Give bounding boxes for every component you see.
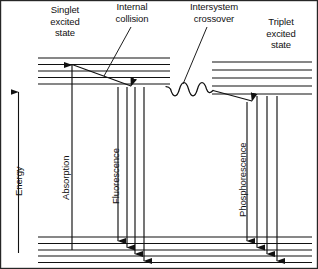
intersystem-crossover-label: Intersystem crossover (172, 1, 256, 24)
energy-axis-label: Energy (13, 166, 24, 196)
phosphorescence-label: Phosphorescence (237, 142, 248, 217)
internal-collision-label: Internal collision (96, 1, 168, 24)
figure-canvas: Singlet excited state Internal collision… (0, 0, 318, 269)
triplet-excited-state-label: Triplet excited state (248, 16, 314, 51)
absorption-label: Absorption (60, 156, 71, 200)
fluorescence-label: Fluorescence (110, 148, 121, 204)
singlet-excited-state-label: Singlet excited state (28, 4, 102, 39)
